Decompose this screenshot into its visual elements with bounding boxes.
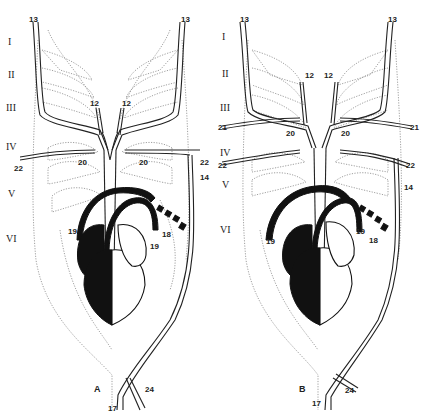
arch-label: III: [6, 102, 16, 113]
panel-a: I II III IV V VI 13 13 12 12 20 20 22 22…: [6, 15, 209, 413]
arch-label: II: [222, 68, 229, 79]
vessel-label: 19: [356, 227, 365, 236]
arch-label: VI: [220, 224, 231, 235]
vessel-label: 19: [266, 237, 275, 246]
panel-letter-a: A: [94, 384, 101, 394]
vessel-label: 19: [150, 242, 159, 251]
aortic-arch-diagram: I II III IV V VI 13 13 12 12 20 20 22 22…: [0, 0, 423, 417]
vessel-label: 13: [181, 15, 190, 24]
vessel-label: 21: [218, 123, 227, 132]
vessel-label: 12: [305, 71, 314, 80]
vessel-label: 12: [122, 99, 131, 108]
vessel-label: 20: [286, 129, 295, 138]
arch-label: IV: [6, 141, 17, 152]
vessel-label: 13: [29, 15, 38, 24]
arch-label: III: [220, 102, 230, 113]
vessel-label: 13: [240, 15, 249, 24]
vessel-label: 22: [218, 161, 227, 170]
vessel-label: 22: [200, 158, 209, 167]
vessel-label: 18: [369, 236, 378, 245]
vessel-label: 14: [404, 183, 413, 192]
vessel-label: 24: [345, 386, 354, 395]
arch-label: V: [8, 188, 16, 199]
vessel-label: 20: [341, 129, 350, 138]
vessel-label: 22: [14, 164, 23, 173]
arch-label: IV: [220, 147, 231, 158]
arch-label: V: [222, 179, 230, 190]
vessel-label: 19: [68, 227, 77, 236]
arch-label: I: [222, 31, 225, 42]
arch-label: VI: [6, 233, 17, 244]
vessel-label: 20: [78, 158, 87, 167]
panel-letter-b: B: [299, 384, 306, 394]
vessel-label: 18: [162, 230, 171, 239]
arch-label: I: [8, 36, 11, 47]
vessel-label: 17: [108, 404, 117, 413]
vessel-label: 17: [312, 399, 321, 408]
vessel-label: 12: [324, 71, 333, 80]
vessel-label: 12: [90, 99, 99, 108]
ductus-dashes: [157, 205, 186, 230]
vessel-label: 21: [410, 123, 419, 132]
vessel-label: 22: [406, 161, 415, 170]
vessel-label: 14: [200, 173, 209, 182]
panel-b: I II III IV V VI 13 13 12 12 21 21 20 20…: [218, 15, 419, 410]
vessel-label: 20: [139, 158, 148, 167]
arch-label: II: [8, 69, 15, 80]
vessel-label: 13: [388, 15, 397, 24]
vessel-label: 24: [145, 385, 154, 394]
